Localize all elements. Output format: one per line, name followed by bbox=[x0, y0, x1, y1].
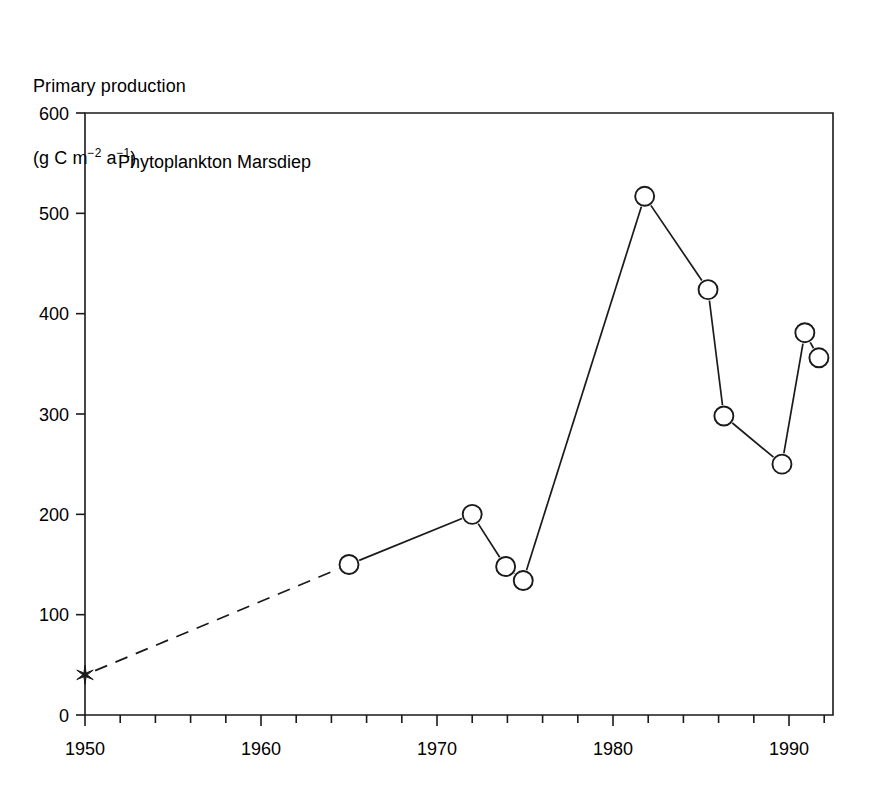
data-point-circle-marker bbox=[635, 187, 654, 206]
series-segment bbox=[810, 342, 813, 348]
series-segment bbox=[478, 524, 500, 558]
plot-annotation-label: Phytoplankton Marsdiep bbox=[118, 152, 311, 172]
chart-figure: Primary production (g C m−2 a−1) 1950196… bbox=[0, 0, 869, 787]
series-segment bbox=[651, 205, 702, 280]
x-tick-label: 1960 bbox=[241, 739, 281, 759]
y-tick-label: 0 bbox=[59, 706, 69, 726]
data-point-circle-marker bbox=[340, 555, 359, 574]
series-segment bbox=[709, 301, 722, 406]
data-point-circle-marker bbox=[772, 455, 791, 474]
x-tick-label: 1950 bbox=[65, 739, 105, 759]
data-point-circle-marker bbox=[699, 280, 718, 299]
y-axis-tick-labels: 0100200300400500600 bbox=[39, 104, 69, 726]
plot-area: 19501960197019801990 0100200300400500600… bbox=[0, 0, 869, 787]
x-tick-label: 1970 bbox=[417, 739, 457, 759]
x-axis-tick-labels: 19501960197019801990 bbox=[65, 739, 809, 759]
series-data-markers bbox=[77, 187, 829, 685]
series-line-path bbox=[95, 205, 813, 670]
data-point-circle-marker bbox=[496, 557, 515, 576]
x-tick-label: 1980 bbox=[593, 739, 633, 759]
x-tick-label: 1990 bbox=[769, 739, 809, 759]
data-point-star-marker bbox=[77, 665, 93, 684]
y-tick-label: 100 bbox=[39, 605, 69, 625]
data-point-circle-marker bbox=[795, 323, 814, 342]
y-tick-label: 600 bbox=[39, 104, 69, 124]
data-point-circle-marker bbox=[463, 505, 482, 524]
series-segment bbox=[784, 344, 803, 454]
x-axis-ticks bbox=[85, 715, 824, 726]
plot-svg: 19501960197019801990 0100200300400500600… bbox=[0, 0, 869, 787]
y-tick-label: 200 bbox=[39, 505, 69, 525]
data-point-circle-marker bbox=[714, 407, 733, 426]
data-point-circle-marker bbox=[809, 348, 828, 367]
series-segment bbox=[359, 518, 462, 560]
y-tick-label: 500 bbox=[39, 204, 69, 224]
series-segment bbox=[527, 207, 642, 570]
y-axis-ticks bbox=[76, 113, 85, 715]
y-tick-label: 300 bbox=[39, 405, 69, 425]
series-segment bbox=[95, 569, 339, 671]
data-point-circle-marker bbox=[514, 571, 533, 590]
y-tick-label: 400 bbox=[39, 304, 69, 324]
series-segment bbox=[732, 423, 773, 457]
